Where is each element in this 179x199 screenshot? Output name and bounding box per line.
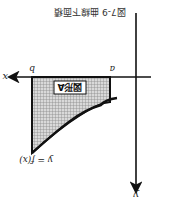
x-axis-label: x [2,72,8,83]
y-axis-label: y [133,190,140,199]
point-b-label: b [29,64,35,74]
curve-label: y = f(x) [19,155,54,165]
point-a-label: a [110,64,115,74]
region-label: 図形A [57,82,82,93]
area-under-curve-diagram: 図7-9 曲線下面積 x y a b y = f(x) 図形A [0,0,179,199]
figure-caption: 図7-9 曲線下面積 [54,7,126,18]
diagram-stage: 図7-9 曲線下面積 x y a b y = f(x) 図形A [0,0,179,199]
